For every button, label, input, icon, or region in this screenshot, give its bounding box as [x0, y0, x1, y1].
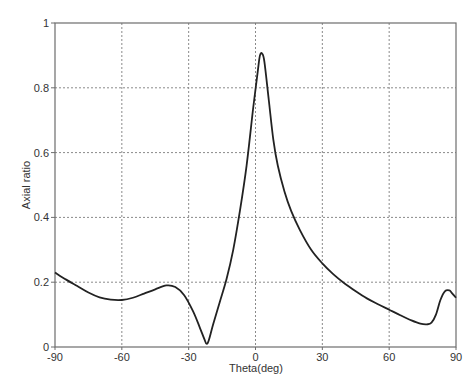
x-tick-label: 30	[316, 351, 328, 363]
y-tick-label: 0	[43, 341, 49, 353]
y-tick-label: 0.4	[34, 211, 49, 223]
y-axis-label: Axial ratio	[20, 161, 32, 209]
y-tick-labels: 00.20.40.60.81	[34, 17, 49, 353]
x-tick-label: 60	[383, 351, 395, 363]
x-axis-label: Theta(deg)	[229, 362, 283, 374]
grid-layer	[55, 23, 456, 347]
plot-frame	[51, 23, 456, 350]
y-tick-label: 1	[43, 17, 49, 29]
x-tick-label: -90	[47, 351, 63, 363]
axial-ratio-chart: -90-60-300306090 00.20.40.60.81 Theta(de…	[0, 0, 470, 388]
y-tick-label: 0.6	[34, 147, 49, 159]
x-tick-label: -30	[181, 351, 197, 363]
x-tick-label: 90	[450, 351, 462, 363]
x-tick-label: -60	[114, 351, 130, 363]
y-tick-label: 0.8	[34, 82, 49, 94]
y-tick-label: 0.2	[34, 276, 49, 288]
